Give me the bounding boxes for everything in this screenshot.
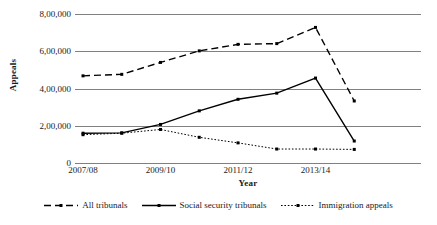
x-tick-label: 2011/12 — [223, 165, 252, 176]
gridline — [75, 163, 421, 164]
plot-area — [75, 14, 421, 163]
data-point-marker — [275, 148, 278, 151]
data-point-marker — [198, 109, 201, 112]
data-point-marker — [120, 73, 123, 76]
dotted-line-marker-icon — [281, 201, 315, 210]
data-point-marker — [159, 123, 162, 126]
data-point-marker — [353, 140, 356, 143]
x-axis-tick-labels: 2007/082009/102011/122013/14 — [75, 165, 421, 179]
data-point-marker — [159, 128, 162, 131]
data-point-marker — [82, 74, 85, 77]
data-point-marker — [314, 77, 317, 80]
data-point-marker — [198, 136, 201, 139]
data-point-marker — [82, 133, 85, 136]
x-tick-label: 2007/08 — [68, 165, 98, 176]
legend-label: Immigration appeals — [319, 200, 393, 210]
legend-item[interactable]: Immigration appeals — [281, 200, 393, 210]
data-point-marker — [275, 92, 278, 95]
data-point-marker — [314, 26, 317, 29]
dashed-line-marker-icon — [44, 201, 78, 210]
y-tick-label: 0 — [0, 159, 71, 168]
chart-legend: All tribunalsSocial security tribunalsIm… — [0, 200, 437, 210]
line-chart-figure: Appeals 02,00,0004,00,0006,00,0008,00,00… — [0, 0, 437, 225]
legend-item[interactable]: All tribunals — [44, 200, 127, 210]
legend-label: Social security tribunals — [180, 200, 267, 210]
data-point-marker — [237, 98, 240, 101]
data-point-marker — [120, 132, 123, 135]
series-line — [83, 27, 354, 101]
data-point-marker — [353, 99, 356, 102]
series-line — [83, 78, 354, 141]
data-point-marker — [198, 49, 201, 52]
data-point-marker — [237, 43, 240, 46]
data-point-marker — [159, 61, 162, 64]
data-point-marker — [314, 148, 317, 151]
solid-line-marker-icon — [142, 201, 176, 210]
data-point-marker — [275, 42, 278, 45]
legend-item[interactable]: Social security tribunals — [142, 200, 267, 210]
x-axis-title: Year — [75, 178, 421, 188]
y-tick-label: 4,00,000 — [0, 85, 71, 94]
y-tick-label: 6,00,000 — [0, 47, 71, 56]
data-point-marker — [237, 141, 240, 144]
legend-label: All tribunals — [82, 200, 127, 210]
y-tick-label: 8,00,000 — [0, 10, 71, 19]
series-lines — [75, 14, 421, 163]
y-tick-label: 2,00,000 — [0, 122, 71, 131]
x-tick-label: 2009/10 — [146, 165, 176, 176]
data-point-marker — [353, 148, 356, 151]
x-tick-label: 2013/14 — [301, 165, 331, 176]
